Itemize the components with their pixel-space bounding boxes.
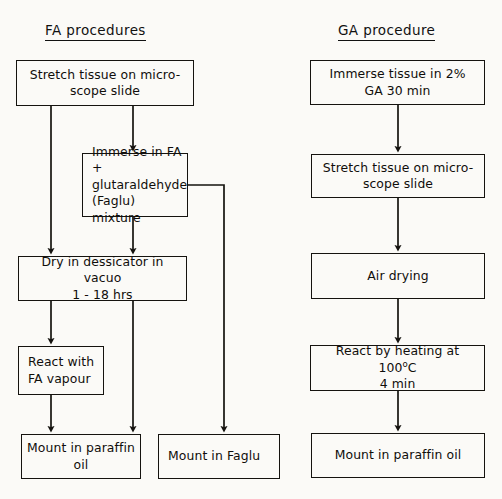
react-heating-line1-pre: React by heating at 100 — [336, 343, 459, 374]
node-fa-mount-paraffin-label: Mount in paraffin oil — [27, 440, 135, 473]
node-fa-stretch-tissue-label: Stretch tissue on micro- scope slide — [22, 67, 188, 100]
node-fa-mount-faglu-label: Mount in Faglu — [168, 448, 274, 464]
node-fa-dry-dessicator: Dry in dessicator in vacuo 1 - 18 hrs — [18, 256, 187, 301]
node-ga-immerse-tissue-label: Immerse tissue in 2% GA 30 min — [316, 66, 479, 99]
node-ga-react-heating-label: React by heating at 100oC 4 min — [316, 343, 479, 392]
edge-fa-immerse-to-mount-faglu — [188, 185, 224, 429]
node-fa-stretch-tissue: Stretch tissue on micro- scope slide — [16, 60, 194, 106]
node-fa-immerse-faglu: Immerse in FA + glutaraldehyde (Faglu) m… — [82, 153, 188, 217]
node-ga-react-heating: React by heating at 100oC 4 min — [310, 345, 485, 391]
node-ga-immerse-tissue: Immerse tissue in 2% GA 30 min — [310, 60, 485, 105]
node-ga-air-drying-label: Air drying — [317, 268, 479, 284]
node-ga-stretch-tissue: Stretch tissue on micro- scope slide — [311, 154, 485, 198]
node-fa-immerse-faglu-label: Immerse in FA + glutaraldehyde (Faglu) m… — [92, 144, 182, 226]
react-heating-line2: 4 min — [380, 376, 416, 391]
flowchart-diagram: FA procedures GA procedure — [0, 0, 502, 499]
node-fa-mount-faglu: Mount in Faglu — [158, 434, 280, 479]
node-fa-mount-paraffin: Mount in paraffin oil — [21, 434, 141, 479]
node-ga-mount-paraffin-label: Mount in paraffin oil — [317, 447, 479, 463]
node-ga-air-drying: Air drying — [311, 253, 485, 299]
node-fa-react-vapour-label: React with FA vapour — [28, 354, 98, 387]
node-ga-mount-paraffin: Mount in paraffin oil — [311, 433, 485, 478]
node-fa-react-vapour: React with FA vapour — [18, 346, 104, 395]
react-heating-line1-post: C — [408, 360, 417, 375]
node-fa-dry-dessicator-label: Dry in dessicator in vacuo 1 - 18 hrs — [24, 254, 181, 303]
node-ga-stretch-tissue-label: Stretch tissue on micro- scope slide — [317, 160, 479, 193]
